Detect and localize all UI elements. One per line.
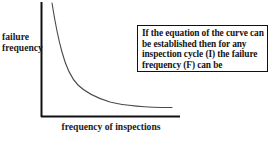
annotation-textbox: If the equation of the curve can be esta…: [137, 25, 268, 72]
annotation-textbox-text: If the equation of the curve can be esta…: [142, 28, 264, 72]
failure-frequency-chart-figure: failure frequency frequency of inspectio…: [0, 0, 274, 145]
x-axis-label: frequency of inspections: [41, 122, 181, 133]
y-axis-label: failure frequency: [2, 32, 42, 53]
